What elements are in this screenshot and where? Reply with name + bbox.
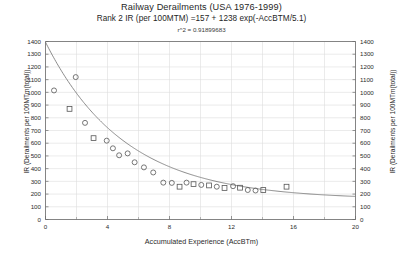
svg-text:100: 100 <box>31 203 42 210</box>
chart-title: Railway Derailments (USA 1976-1999) <box>0 2 403 13</box>
svg-text:900: 900 <box>360 101 371 108</box>
svg-text:400: 400 <box>360 165 371 172</box>
svg-text:1100: 1100 <box>28 76 42 83</box>
svg-text:12: 12 <box>228 223 235 230</box>
svg-text:700: 700 <box>31 127 42 134</box>
svg-text:800: 800 <box>360 114 371 121</box>
svg-text:300: 300 <box>31 178 42 185</box>
svg-text:300: 300 <box>360 178 371 185</box>
plot-canvas: 0010010020020030030040040050050060060070… <box>0 0 403 256</box>
svg-text:600: 600 <box>31 139 42 146</box>
svg-text:4: 4 <box>106 223 110 230</box>
svg-text:400: 400 <box>31 165 42 172</box>
svg-text:200: 200 <box>360 190 371 197</box>
svg-text:0: 0 <box>44 223 48 230</box>
svg-text:1100: 1100 <box>360 76 374 83</box>
svg-text:700: 700 <box>360 127 371 134</box>
svg-text:8: 8 <box>168 223 172 230</box>
chart-subtitle: Rank 2 IR (per 100MTM) =157 + 1238 exp(-… <box>0 14 403 23</box>
svg-text:1200: 1200 <box>360 63 374 70</box>
svg-text:100: 100 <box>360 203 371 210</box>
grid-lines <box>46 42 356 220</box>
svg-text:1300: 1300 <box>360 50 374 57</box>
chart-r2-annotation: r^2 = 0.91899683 <box>0 26 403 33</box>
chart-title-block: Railway Derailments (USA 1976-1999) Rank… <box>0 2 403 33</box>
svg-text:600: 600 <box>360 139 371 146</box>
svg-text:0: 0 <box>38 216 42 223</box>
svg-text:1400: 1400 <box>27 38 41 45</box>
svg-text:20: 20 <box>352 223 359 230</box>
chart-figure: Railway Derailments (USA 1976-1999) Rank… <box>0 0 403 256</box>
y-axis-label-right: IR (Derailments per 100MTm(total)) <box>389 52 396 192</box>
svg-text:500: 500 <box>360 152 371 159</box>
svg-text:0: 0 <box>360 216 364 223</box>
x-axis-label: Accumulated Experience (AccBTm) <box>0 237 403 246</box>
svg-text:1400: 1400 <box>360 38 374 45</box>
svg-text:1000: 1000 <box>360 89 374 96</box>
svg-text:900: 900 <box>31 101 42 108</box>
y-axis-label-left: IR (Derailments per 100MTm(total)) <box>23 52 30 192</box>
svg-text:200: 200 <box>31 190 42 197</box>
svg-text:500: 500 <box>31 152 42 159</box>
svg-text:800: 800 <box>31 114 42 121</box>
svg-text:16: 16 <box>290 223 297 230</box>
